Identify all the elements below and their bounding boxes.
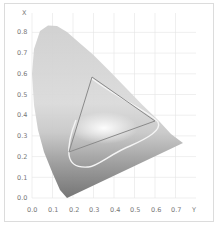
- svg-text:0.1: 0.1: [17, 174, 27, 182]
- spectral-locus: [32, 26, 183, 199]
- svg-text:0.3: 0.3: [89, 206, 99, 214]
- svg-text:0.6: 0.6: [17, 70, 27, 78]
- svg-text:0.6: 0.6: [151, 206, 161, 214]
- svg-text:0.4: 0.4: [17, 111, 27, 119]
- svg-text:0.3: 0.3: [17, 132, 27, 140]
- y-axis-ticks: X 0.8 0.7 0.6 0.5 0.4 0.3 0.2 0.1 0.0: [17, 9, 27, 202]
- svg-text:0.2: 0.2: [17, 153, 27, 161]
- svg-text:0.5: 0.5: [17, 91, 27, 99]
- x-axis-label: Y: [191, 206, 196, 214]
- svg-text:0.7: 0.7: [171, 206, 181, 214]
- svg-text:0.1: 0.1: [48, 206, 58, 214]
- svg-text:0.4: 0.4: [110, 206, 120, 214]
- svg-text:0.7: 0.7: [17, 49, 27, 57]
- y-axis-label: X: [22, 9, 27, 17]
- svg-text:0.0: 0.0: [17, 194, 27, 202]
- chart-svg: X 0.8 0.7 0.6 0.5 0.4 0.3 0.2 0.1 0.0 0.…: [0, 0, 216, 228]
- svg-text:0.2: 0.2: [69, 206, 79, 214]
- svg-text:0.8: 0.8: [17, 28, 27, 36]
- x-axis-ticks: 0.0 0.1 0.2 0.3 0.4 0.5 0.6 0.7 Y: [27, 206, 196, 214]
- svg-text:0.0: 0.0: [27, 206, 37, 214]
- svg-text:0.5: 0.5: [130, 206, 140, 214]
